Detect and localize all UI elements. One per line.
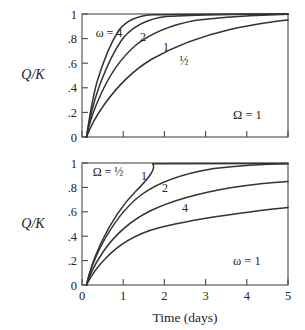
top-curve-label-omega-4: ω = 4 — [96, 26, 123, 40]
top-panel-y-ticks — [82, 14, 88, 137]
two-panel-line-chart: 0 .2 .4 .6 .8 1 ω = 4 2 1 — [0, 0, 305, 330]
bottom-curve-label-4: 4 — [182, 201, 188, 215]
bottom-panel-ylabel: Q/K — [21, 216, 45, 231]
bottom-y-tick-3: .6 — [68, 205, 77, 219]
top-curve-label-1: 1 — [163, 40, 169, 54]
figure-xlabel: Time (days) — [152, 310, 217, 325]
bottom-y-tick-4: .8 — [68, 181, 77, 195]
top-y-tick-3: .6 — [68, 57, 77, 71]
top-panel-annotation: Ω = 1 — [233, 108, 262, 122]
top-panel-ylabel: Q/K — [21, 67, 45, 82]
top-y-tick-4: .8 — [68, 32, 77, 46]
bottom-y-tick-5: 1 — [71, 157, 77, 171]
bottom-curve-label-1: 1 — [141, 169, 147, 183]
bottom-x-tick-2: 2 — [161, 289, 167, 303]
top-y-tick-1: .2 — [68, 106, 77, 120]
bottom-panel-y-ticks — [82, 163, 88, 285]
bottom-panel-x-ticks — [82, 279, 288, 285]
top-y-tick-0: 0 — [71, 131, 77, 145]
bottom-x-tick-0: 0 — [79, 289, 85, 303]
curve-bottom-omega-4 — [87, 208, 289, 286]
bottom-x-tick-4: 4 — [244, 289, 251, 303]
bottom-y-tick-2: .4 — [68, 230, 78, 244]
top-curve-label-half: ½ — [180, 54, 189, 68]
bottom-y-tick-1: .2 — [68, 254, 77, 268]
bottom-x-tick-1: 1 — [120, 289, 126, 303]
curve-bottom-omega-2 — [87, 182, 289, 285]
bottom-panel: 0 .2 .4 .6 .8 1 0 1 2 3 4 5 — [21, 157, 291, 304]
top-y-tick-5: 1 — [71, 8, 77, 22]
top-y-tick-2: .4 — [68, 81, 78, 95]
bottom-x-tick-5: 5 — [285, 289, 291, 303]
bottom-panel-annotation: ω = 1 — [233, 254, 261, 268]
top-curve-label-2: 2 — [140, 30, 146, 44]
bottom-curve-label-omega-half: Ω = ½ — [93, 165, 124, 179]
bottom-x-tick-3: 3 — [202, 289, 208, 303]
bottom-curve-label-2: 2 — [162, 181, 168, 195]
bottom-y-tick-0: 0 — [71, 279, 77, 293]
top-panel: 0 .2 .4 .6 .8 1 ω = 4 2 1 — [21, 8, 288, 145]
top-panel-x-ticks — [82, 131, 288, 137]
figure-container: 0 .2 .4 .6 .8 1 ω = 4 2 1 — [0, 0, 305, 330]
